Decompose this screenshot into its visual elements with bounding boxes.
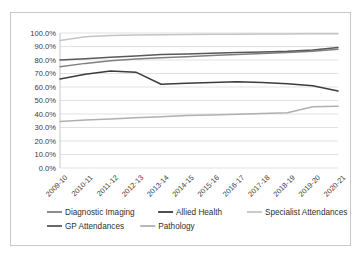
legend-label: Diagnostic Imaging <box>65 208 135 217</box>
chart-legend: Diagnostic ImagingAllied HealthSpecialis… <box>47 208 347 231</box>
legend-label: Specialist Attendances <box>265 208 347 217</box>
x-axis-tick-label: 2016-17 <box>221 173 247 199</box>
x-axis-tick-label: 2018-19 <box>271 173 297 199</box>
x-axis-tick-label: 2019-20 <box>297 173 323 199</box>
x-axis-tick-label: 2011-12 <box>95 173 120 198</box>
y-axis-tick-label: 40.0% <box>34 110 56 119</box>
x-axis-tick-label: 2009-10 <box>44 173 70 199</box>
y-axis-tick-label: 50.0% <box>34 96 56 105</box>
y-axis-tick-label: 100.0% <box>30 29 56 38</box>
series-line-allied-health <box>60 71 338 91</box>
line-chart: 0.0%10.0%20.0%30.0%40.0%50.0%60.0%70.0%8… <box>11 13 350 245</box>
y-axis-tick-label: 30.0% <box>34 123 56 132</box>
chart-canvas: 0.0%10.0%20.0%30.0%40.0%50.0%60.0%70.0%8… <box>11 13 350 245</box>
x-axis-tick-label: 2020-21 <box>322 173 348 199</box>
x-axis-tick-label: 2014-15 <box>170 173 196 199</box>
legend-label: Pathology <box>158 222 195 231</box>
y-axis-tick-label: 80.0% <box>34 56 56 65</box>
legend-label: Allied Health <box>176 208 222 217</box>
series-line-specialist-attendances <box>60 34 338 41</box>
x-axis-tick-label: 2010-11 <box>70 173 95 198</box>
x-axis-tick-label: 2015-16 <box>196 173 222 199</box>
y-axis-tick-label: 0.0% <box>39 164 57 173</box>
x-axis-tick-label: 2017-18 <box>246 173 272 199</box>
y-axis-tick-label: 90.0% <box>34 42 56 51</box>
y-axis-tick-label: 20.0% <box>34 137 56 146</box>
y-axis-tick-label: 10.0% <box>34 150 56 159</box>
y-axis-tick-label: 60.0% <box>34 83 56 92</box>
x-axis-tick-labels: 2009-102010-112011-122012-132013-142014-… <box>44 173 348 199</box>
y-axis-tick-label: 70.0% <box>34 69 56 78</box>
y-axis-tick-labels: 0.0%10.0%20.0%30.0%40.0%50.0%60.0%70.0%8… <box>30 29 56 173</box>
chart-card: 0.0%10.0%20.0%30.0%40.0%50.0%60.0%70.0%8… <box>10 12 351 246</box>
x-axis-tick-label: 2012-13 <box>120 173 146 199</box>
x-axis-tick-label: 2013-14 <box>145 173 171 199</box>
series-line-gp-attendances <box>60 47 338 60</box>
legend-label: GP Attendances <box>65 222 124 231</box>
